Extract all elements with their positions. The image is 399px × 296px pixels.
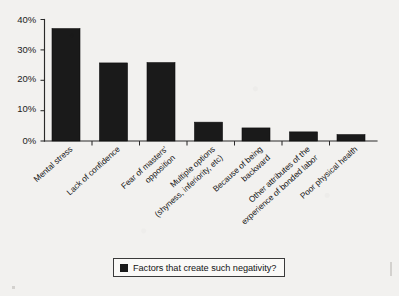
y-axis-ticks — [41, 20, 45, 142]
chart-legend: Factors that create such negativity? — [113, 258, 285, 277]
y-tick-label: 20% — [17, 73, 36, 84]
y-axis-tick-labels: 40% 30% 20% 10% 0% — [17, 14, 36, 146]
legend-item-label: Factors that create such negativity? — [133, 263, 276, 273]
bar-1 — [100, 63, 128, 141]
bar-6 — [337, 135, 365, 141]
bar-0 — [52, 29, 80, 141]
bar-chart-figure: 40% 30% 20% 10% 0% — [0, 0, 399, 296]
bar-5 — [290, 132, 318, 141]
y-tick-label: 10% — [17, 103, 36, 114]
y-tick-label: 30% — [17, 44, 36, 55]
scan-speck — [390, 262, 392, 276]
y-tick-label: 40% — [17, 14, 36, 25]
scan-speck — [12, 286, 15, 289]
bar-2 — [147, 63, 175, 141]
bar-3 — [195, 122, 223, 141]
bar-series — [52, 29, 365, 141]
x-axis-category-labels: Mental stress Lack of confidence Fear of… — [31, 144, 359, 227]
bar-4 — [242, 128, 270, 141]
chart-plot-area: 40% 30% 20% 10% 0% — [0, 0, 399, 296]
y-tick-label: 0% — [22, 135, 36, 146]
x-tick-label-0: Mental stress — [31, 144, 74, 184]
legend-color-swatch — [120, 264, 128, 272]
